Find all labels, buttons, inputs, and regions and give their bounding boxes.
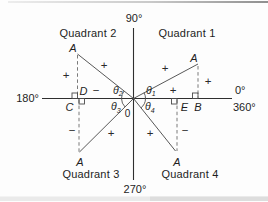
point-e-label: E — [181, 101, 189, 113]
q2-sign-hypotenuse: + — [101, 59, 108, 71]
point-b-label: B — [194, 101, 201, 113]
quadrant-diagram: 90° 270° 180° 0° 360° 0 Quadrant 2 Quadr… — [0, 0, 268, 202]
axis-label-0: 0° — [235, 84, 246, 96]
theta4-label: θ4 — [145, 100, 155, 114]
theta3-subscript: 3 — [117, 107, 121, 114]
right-angle-mark-c — [79, 99, 85, 105]
theta2-label: θ2 — [113, 84, 123, 98]
point-c-label: C — [66, 101, 74, 113]
right-angle-mark-b — [193, 93, 199, 99]
quadrant1-label: Quadrant 1 — [158, 27, 215, 39]
q4-sign-vertical: − — [182, 124, 189, 136]
theta3-arc — [122, 99, 126, 108]
q1-sign-vertical: + — [205, 75, 212, 87]
q2-vertex-a-label: A — [68, 42, 76, 54]
scan-edge-top — [8, 1, 268, 3]
axis-label-180: 180° — [16, 92, 39, 104]
theta1-label: θ1 — [146, 84, 156, 98]
scan-edge-bottom-right — [150, 197, 268, 202]
quadrant3-label: Quadrant 3 — [62, 168, 119, 180]
theta4-subscript: 4 — [151, 107, 155, 114]
right-angle-mark-d — [72, 93, 78, 99]
q1-sign-hypotenuse: + — [162, 62, 169, 74]
diagram-canvas: 90° 270° 180° 0° 360° 0 Quadrant 2 Quadr… — [0, 0, 268, 202]
q1-vertex-a-label: A — [189, 52, 197, 64]
q4-vertex-a-label: A — [172, 156, 180, 168]
quadrant2-label: Quadrant 2 — [59, 27, 116, 39]
origin-label: 0 — [125, 108, 131, 119]
axis-label-90: 90° — [126, 12, 143, 24]
axis-label-360: 360° — [233, 101, 256, 113]
right-angle-mark-e — [172, 99, 178, 105]
theta2-subscript: 2 — [118, 90, 123, 97]
q3-sign-vertical: − — [69, 124, 76, 136]
theta3-label: θ3 — [111, 100, 121, 114]
q3-vertex-a-label: A — [75, 156, 83, 168]
quadrant4-label: Quadrant 4 — [161, 168, 218, 180]
axis-label-270: 270° — [124, 183, 147, 195]
q2-sign-horizontal: − — [93, 84, 100, 96]
point-d-label: D — [80, 85, 88, 97]
q3-sign-hypotenuse: + — [108, 127, 115, 139]
q1-sign-horizontal: + — [170, 84, 177, 96]
theta1-subscript: 1 — [152, 90, 156, 97]
q2-sign-vertical: + — [63, 69, 70, 81]
q4-sign-hypotenuse: + — [147, 127, 154, 139]
